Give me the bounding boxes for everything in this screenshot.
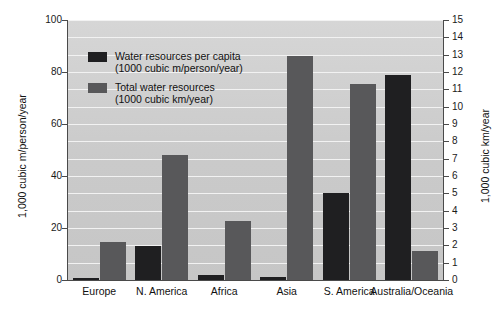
y-axis-right-tick-label: 3	[452, 223, 458, 233]
legend-swatch-icon	[88, 83, 107, 93]
y-axis-left-tick-label: 20	[34, 223, 62, 233]
y-axis-right-tick	[443, 263, 449, 264]
y-axis-left-tick	[62, 20, 68, 21]
legend-item-label: Total water resources (1000 cubic km/yea…	[115, 81, 215, 105]
y-axis-right-tick-label: 4	[452, 206, 458, 216]
y-axis-left-tick	[62, 72, 68, 73]
bar-water-per-capita	[385, 75, 411, 280]
y-axis-left-tick-label: 60	[34, 119, 62, 129]
gridline	[68, 37, 443, 38]
y-axis-right-tick	[443, 124, 449, 125]
y-axis-right-tick-label: 7	[452, 154, 458, 164]
bar-total-water	[287, 56, 313, 280]
y-axis-right-tick	[443, 20, 449, 21]
y-axis-right-tick	[443, 72, 449, 73]
y-axis-right-tick-label: 5	[452, 188, 458, 198]
y-axis-right-title: 1,000 cubic km/year	[479, 71, 491, 241]
y-axis-right-tick-label: 11	[452, 84, 462, 94]
y-axis-right-tick	[443, 159, 449, 160]
y-axis-right-tick-label: 15	[452, 15, 463, 25]
x-axis-line	[67, 280, 444, 281]
y-axis-right-tick-label: 8	[452, 136, 458, 146]
y-axis-right-tick	[443, 141, 449, 142]
legend-item-water-per-capita: Water resources per capita (1000 cubic m…	[88, 50, 243, 74]
y-axis-right-tick	[443, 89, 449, 90]
gridline	[68, 20, 443, 21]
y-axis-right-tick	[443, 37, 449, 38]
legend-label-line1: Water resources per capita	[115, 50, 241, 62]
y-axis-right-tick-label: 12	[452, 67, 463, 77]
y-axis-left-line	[67, 20, 68, 281]
bar-water-per-capita	[323, 193, 349, 280]
y-axis-right-tick-label: 10	[452, 102, 463, 112]
legend-swatch-icon	[88, 52, 107, 62]
y-axis-left-tick-label: 0	[34, 275, 62, 285]
bar-total-water	[100, 242, 126, 280]
y-axis-left-tick	[62, 124, 68, 125]
y-axis-right-tick	[443, 211, 449, 212]
y-axis-right-tick-label: 13	[452, 50, 463, 60]
bar-chart: 020406080100 0123456789101112131415 1,00…	[0, 0, 503, 316]
y-axis-right-tick	[443, 245, 449, 246]
y-axis-left-tick	[62, 176, 68, 177]
y-axis-right-line	[443, 20, 444, 281]
y-axis-left-tick-label: 40	[34, 171, 62, 181]
bar-water-per-capita	[135, 246, 161, 280]
bar-total-water	[162, 155, 188, 280]
y-axis-right-tick-label: 0	[452, 275, 458, 285]
y-axis-right-tick-label: 14	[452, 32, 463, 42]
y-axis-right-tick-label: 6	[452, 171, 458, 181]
bar-total-water	[412, 251, 438, 280]
y-axis-left-tick-label: 100	[34, 15, 62, 25]
y-axis-right-tick	[443, 280, 449, 281]
y-axis-right-tick	[443, 107, 449, 108]
y-axis-right-tick-label: 2	[452, 240, 458, 250]
y-axis-left-tick	[62, 280, 68, 281]
legend-item-total-water: Total water resources (1000 cubic km/yea…	[88, 81, 243, 105]
x-axis-category-label: Australia/Oceania	[352, 285, 472, 297]
bar-total-water	[350, 84, 376, 280]
y-axis-right-tick	[443, 193, 449, 194]
bar-total-water	[225, 221, 251, 280]
y-axis-right-tick-label: 1	[452, 258, 458, 268]
legend-label-line1: Total water resources	[115, 81, 215, 93]
y-axis-right-tick	[443, 55, 449, 56]
chart-legend: Water resources per capita (1000 cubic m…	[88, 50, 243, 112]
y-axis-right-tick	[443, 176, 449, 177]
y-axis-left-tick	[62, 228, 68, 229]
y-axis-left-tick-label: 80	[34, 67, 62, 77]
legend-item-label: Water resources per capita (1000 cubic m…	[115, 50, 243, 74]
y-axis-right-tick	[443, 228, 449, 229]
y-axis-left-title: 1,000 cubic m/person/year	[16, 71, 28, 241]
legend-label-line2: (1000 cubic km/year)	[115, 93, 213, 105]
legend-label-line2: (1000 cubic m/person/year)	[115, 62, 243, 74]
y-axis-right-tick-label: 9	[452, 119, 458, 129]
